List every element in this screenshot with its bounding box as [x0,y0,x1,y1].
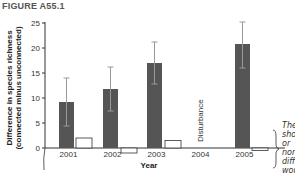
control-box-2002 [121,148,137,153]
y-axis-label: Difference in species richness [5,30,14,146]
x-tick-label: 2004 [192,150,210,159]
y-tick-label: 25 [31,19,40,28]
side-note-line: wou [282,166,295,175]
axis-break-curve [44,148,45,170]
x-axis-label: Year [141,161,158,170]
control-box-2001 [76,138,92,148]
y-tick-label: 5 [36,119,41,128]
y-tick-label: 10 [31,94,40,103]
x-tick-label: 2002 [104,150,122,159]
side-note-line: diff [282,157,295,166]
side-note-line: sho [282,130,295,139]
control-box-2005 [252,148,268,151]
y-tick-label: 0 [36,144,41,153]
control-box-2003 [165,141,181,149]
bar-chart: 0510152025Difference in species richness… [0,0,295,188]
disturbance-annotation: Disturbance [196,99,205,142]
x-tick-label: 2005 [236,150,254,159]
x-tick-label: 2001 [60,150,78,159]
x-tick-label: 2003 [148,150,166,159]
brace-icon [273,130,279,168]
side-note-line: non [282,148,295,157]
y-tick-label: 15 [31,69,40,78]
side-note-line: or [282,139,291,148]
side-note-line: The [282,121,295,130]
y-tick-label: 20 [31,44,40,53]
y-axis-label: (connected minus unconnected) [14,26,23,149]
